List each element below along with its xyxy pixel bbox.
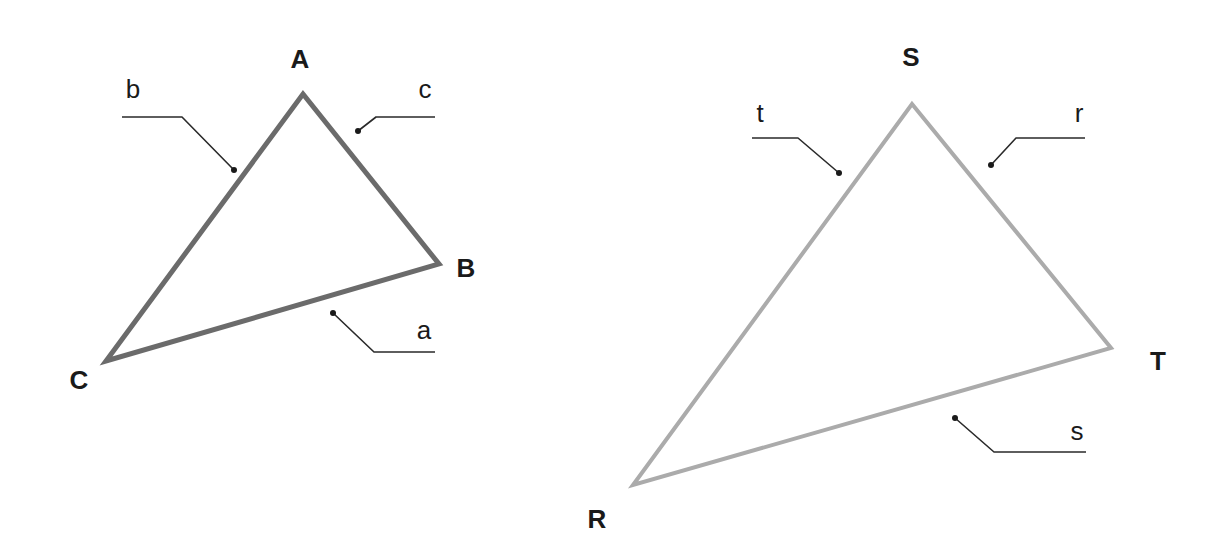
vertex-label-a: A <box>291 44 310 74</box>
vertex-label-b: B <box>457 253 476 283</box>
triangle-rst-outline <box>633 104 1111 485</box>
vertex-label-s: S <box>902 42 919 72</box>
leader-dot-r <box>988 162 994 168</box>
leader-line-b <box>122 117 234 170</box>
side-label-b: b <box>126 74 140 104</box>
side-label-r: r <box>1075 98 1084 128</box>
vertex-label-t: T <box>1150 346 1166 376</box>
leader-line-t <box>752 138 839 173</box>
side-callout-r: r <box>988 98 1085 168</box>
side-label-t: t <box>756 98 764 128</box>
leader-line-s <box>955 418 1086 452</box>
leader-line-c <box>358 117 435 131</box>
side-callout-t: t <box>752 98 842 176</box>
side-label-a: a <box>417 315 432 345</box>
triangle-abc: A B C b c a <box>70 44 476 395</box>
triangle-abc-outline <box>106 94 439 361</box>
leader-dot-c <box>355 128 361 134</box>
leader-dot-s <box>952 415 958 421</box>
side-callout-a: a <box>330 310 435 352</box>
leader-dot-a <box>330 310 336 316</box>
side-callout-c: c <box>355 74 435 134</box>
triangle-rst: S T R t r s <box>588 42 1166 534</box>
vertex-label-r: R <box>588 504 607 534</box>
leader-dot-b <box>231 167 237 173</box>
side-callout-b: b <box>122 74 237 173</box>
triangle-diagram: A B C b c a S T R t <box>0 0 1224 559</box>
leader-dot-t <box>836 170 842 176</box>
side-callout-s: s <box>952 415 1086 452</box>
leader-line-r <box>991 138 1085 165</box>
side-label-s: s <box>1071 416 1084 446</box>
vertex-label-c: C <box>70 365 89 395</box>
side-label-c: c <box>419 74 432 104</box>
